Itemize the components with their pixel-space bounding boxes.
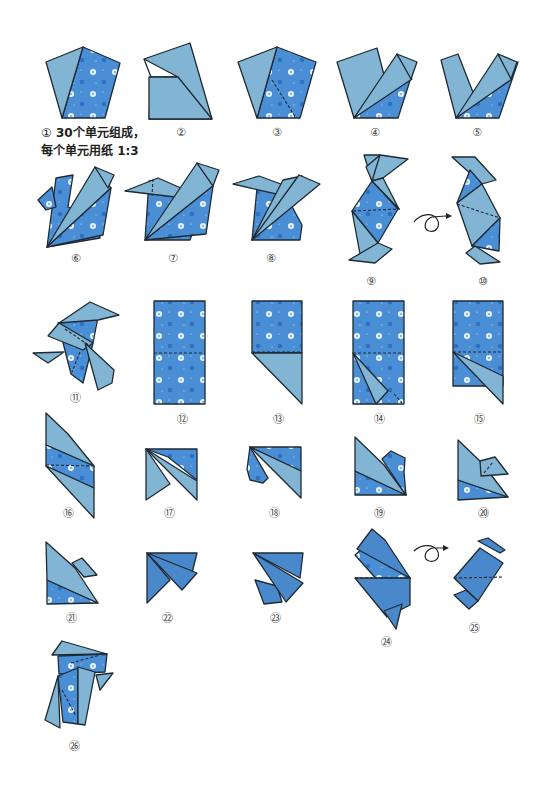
step-18-label: ⑱ [264,507,284,521]
step-26-diagram [45,641,113,728]
step-4-diagram [337,48,417,118]
step-23-diagram [253,553,303,604]
step-20-label: ⑳ [473,507,493,521]
step-11-label: ⑪ [65,392,85,406]
step-7-label: ⑦ [163,252,183,266]
step-6-diagram [38,167,114,247]
step-13-diagram [252,301,302,404]
step-4-label: ④ [365,126,385,140]
step-8-diagram [233,175,320,240]
step-12-diagram [154,301,205,404]
step-16-label: ⑯ [58,507,78,521]
step-15-diagram [453,301,503,404]
step-23-label: ㉓ [265,612,285,626]
step-21-diagram [46,542,98,604]
caption-line-2: 每个单元用纸 1:3 [41,142,145,160]
step-25-diagram [454,538,505,609]
step-22-label: ㉒ [157,612,177,626]
origami-instruction-page: .p{fill:#82b4d4;stroke:#1f2a33;stroke-wi… [0,0,545,788]
step-1-marker: ① [41,126,52,140]
step-24-diagram [355,529,410,629]
step-13-label: ⑬ [268,413,288,427]
step-10-diagram [452,157,500,264]
step-2-diagram [144,43,212,119]
step-24-label: ㉔ [376,636,396,650]
step-16-diagram [46,413,94,518]
step-7-diagram [125,163,219,240]
step-19-label: ⑲ [369,507,389,521]
step-14-label: ⑭ [369,413,389,427]
step-20-diagram [458,440,508,500]
step-26-label: ㉖ [64,740,84,754]
step-11-diagram [33,302,119,390]
step-8-label: ⑧ [261,252,281,266]
step-9-diagram [349,155,408,263]
step-3-label: ③ [267,126,287,140]
step-10-label: ⑩ [473,275,493,289]
step-19-diagram [355,437,406,495]
step-2-label: ② [171,126,191,140]
step-3-diagram [238,47,316,118]
step-1-caption: ① 30个单元组成， 每个单元用纸 1:3 [41,124,145,160]
step-1-diagram [46,47,120,118]
step-5-diagram [441,54,518,118]
caption-line-1: 30个单元组成， [56,126,145,140]
step-21-label: ㉑ [61,612,81,626]
step-17-diagram [146,449,197,500]
step-5-label: ⑤ [467,126,487,140]
step-14-diagram [353,301,404,404]
turn-over-arrow-2 [414,545,449,561]
step-15-label: ⑮ [469,413,489,427]
turn-over-arrow-1 [414,213,452,231]
step-12-label: ⑫ [172,413,192,427]
step-17-label: ⑰ [159,507,179,521]
step-22-diagram [147,553,197,603]
step-18-diagram [247,447,301,498]
step-9-label: ⑨ [361,275,381,289]
step-25-label: ㉕ [464,622,484,636]
step-6-label: ⑥ [66,252,86,266]
